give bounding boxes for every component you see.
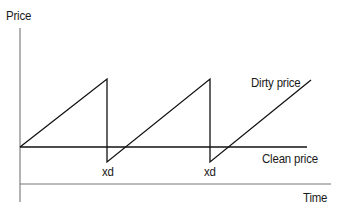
xd-label-1: xd: [102, 164, 114, 179]
dirty-price-line: [20, 79, 311, 162]
xd-label-2: xd: [204, 164, 216, 179]
dirty-price-label: Dirty price: [251, 75, 301, 90]
clean-price-label: Clean price: [262, 151, 318, 166]
price-diagram: Price Dirty price Clean price xd xd Time: [0, 0, 337, 212]
x-axis-label: Time: [303, 190, 327, 205]
diagram-canvas: [0, 0, 337, 212]
y-axis-label: Price: [6, 8, 31, 23]
